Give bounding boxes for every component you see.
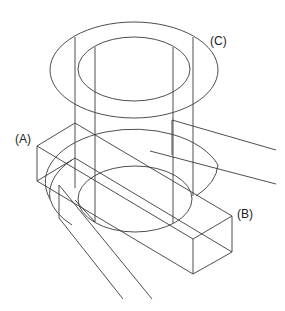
right-strip-upper-line bbox=[172, 120, 276, 150]
bar-right-bottom-end bbox=[193, 252, 232, 274]
bar-top-front-edge bbox=[37, 146, 193, 239]
label-c: (C) bbox=[210, 35, 227, 47]
left-strip-crossing-line bbox=[75, 200, 95, 222]
isometric-diagram bbox=[0, 0, 285, 311]
bar-top-left-end bbox=[37, 123, 75, 146]
left-strip-outer-line bbox=[59, 218, 123, 299]
bar-bottom-front-edge bbox=[37, 181, 193, 274]
label-a: (A) bbox=[15, 133, 31, 145]
label-b: (B) bbox=[237, 208, 253, 220]
cylinder-bottom-outer-left-arc bbox=[50, 160, 72, 225]
bar-right-top-end bbox=[193, 216, 232, 239]
left-strip-inner-line bbox=[59, 185, 152, 299]
bar-top-back-edge bbox=[75, 123, 232, 216]
bar-hidden-bottom-back-edge bbox=[75, 158, 232, 252]
cylinder-bottom-outer-ellipse bbox=[45, 129, 218, 199]
bar-left-back-lower bbox=[37, 158, 75, 181]
